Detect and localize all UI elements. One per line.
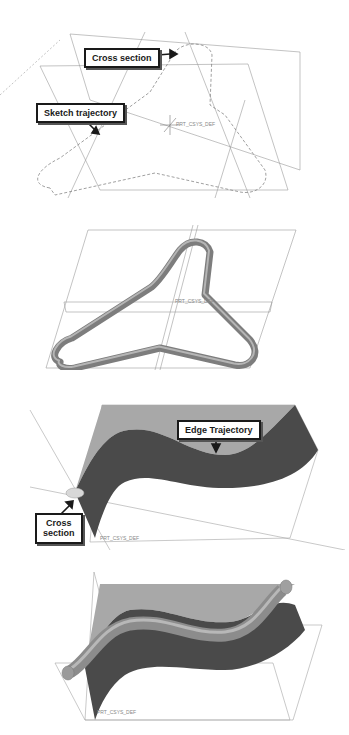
callout-label: Edge Trajectory bbox=[185, 425, 253, 435]
surface-dark bbox=[85, 603, 305, 720]
swept-tube bbox=[55, 242, 255, 369]
callout-cross-section: Cross section bbox=[84, 48, 160, 68]
callout-label: Sketch trajectory bbox=[44, 108, 117, 118]
edge-trajectory-panel: PRT_CSYS_DEF Edge Trajectory Cross secti… bbox=[0, 370, 349, 550]
csys-label: PRT_CSYS_DEF bbox=[175, 298, 214, 304]
csys-label: PRT_CSYS_DEF bbox=[97, 709, 136, 715]
swept-tube-panel: PRT_CSYS_DEF bbox=[0, 200, 349, 370]
callout-label: Cross section bbox=[92, 53, 152, 63]
csys-label: PRT_CSYS_DEF bbox=[100, 535, 139, 541]
callout-edge-trajectory: Edge Trajectory bbox=[177, 420, 261, 440]
callout-label-line2: section bbox=[43, 528, 75, 538]
swept-along-edge-panel: PRT_CSYS_DEF bbox=[0, 550, 349, 735]
tube-model: PRT_CSYS_DEF bbox=[0, 200, 349, 370]
callout-cross-section: Cross section bbox=[35, 513, 83, 544]
csys-label: PRT_CSYS_DEF bbox=[176, 121, 215, 127]
swept-edge-model: PRT_CSYS_DEF bbox=[0, 550, 349, 735]
sketch-trajectory-panel: PRT_CSYS_DEF Cross section Sketch trajec… bbox=[0, 0, 349, 200]
callout-label-line1: Cross bbox=[46, 518, 72, 528]
callout-sketch-trajectory: Sketch trajectory bbox=[36, 103, 125, 123]
cross-section-ellipse bbox=[66, 488, 84, 498]
sketch-wireframe: PRT_CSYS_DEF bbox=[0, 0, 349, 200]
